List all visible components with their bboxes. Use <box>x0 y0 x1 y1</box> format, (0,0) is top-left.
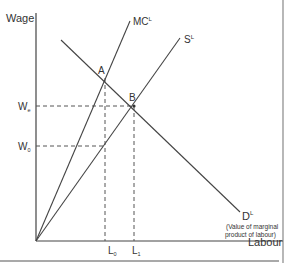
demand-note-line2: product of labour) <box>225 231 276 239</box>
supply-curve <box>36 38 180 241</box>
point-a-label: A <box>98 65 105 76</box>
monopsony-labour-diagram: Wage Labour MCL SL DL (Value of marginal… <box>0 0 286 263</box>
mc-label: MCL <box>133 16 153 27</box>
point-b-label: B <box>129 92 136 103</box>
we-label: We <box>18 101 31 113</box>
l1-label: L1 <box>132 245 141 257</box>
supply-label: SL <box>184 34 195 45</box>
demand-note-line1: (Value of marginal <box>226 223 279 231</box>
l0-label: L0 <box>108 245 117 257</box>
mc-curve <box>36 21 130 241</box>
demand-label: DL <box>242 210 254 222</box>
demand-curve <box>61 40 240 212</box>
w0-label: W0 <box>18 141 31 153</box>
point-b-marker <box>132 104 135 107</box>
y-axis-label: Wage <box>6 12 34 24</box>
